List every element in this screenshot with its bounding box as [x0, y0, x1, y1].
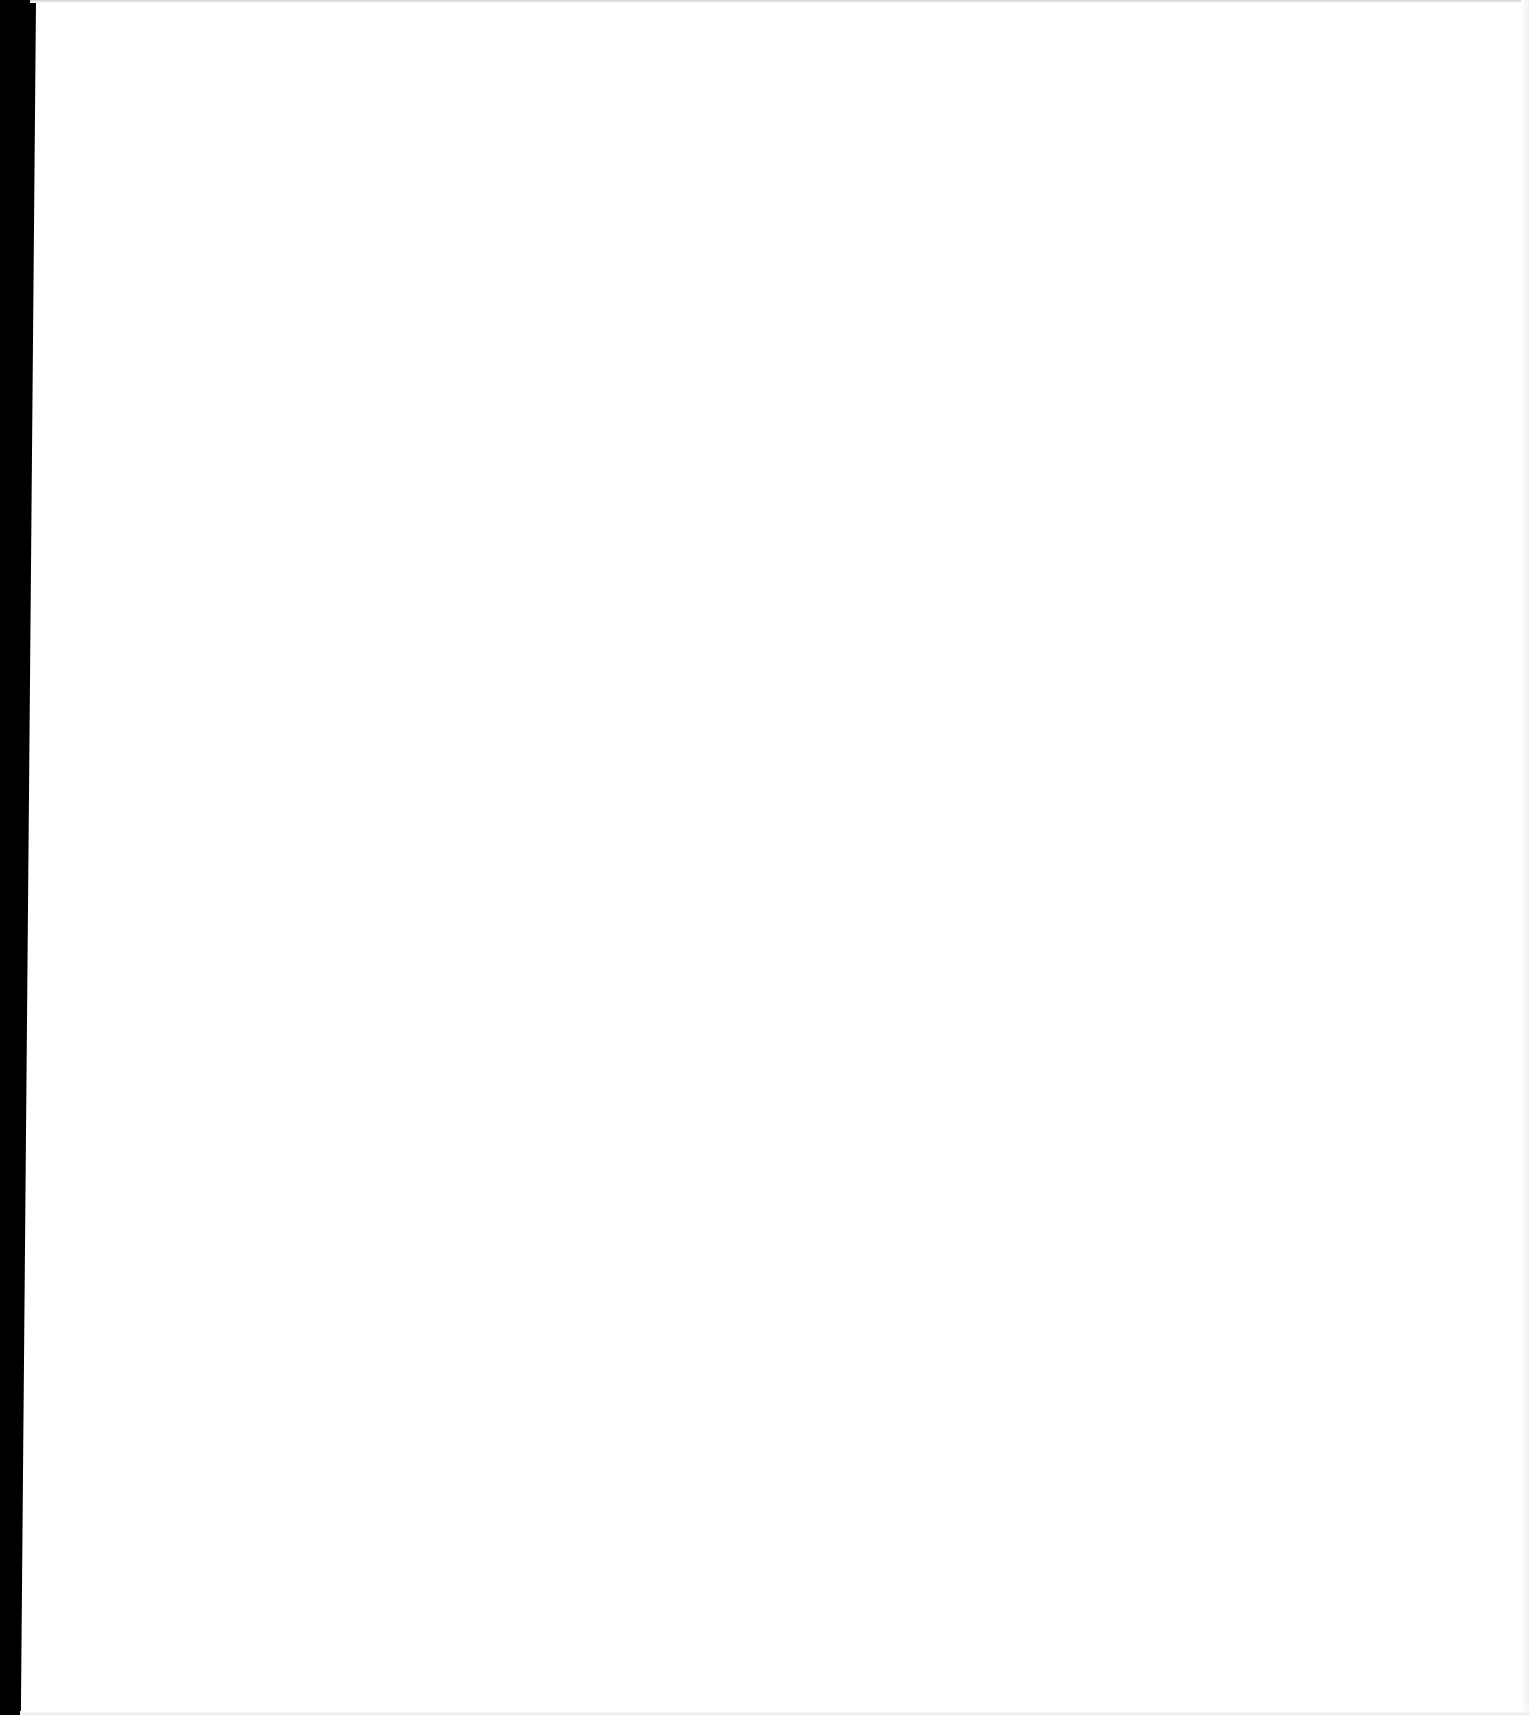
blank-page-area — [36, 3, 1521, 1711]
scan-right-border — [1521, 0, 1529, 1715]
scan-bottom-border — [20, 1711, 1529, 1715]
scan-left-border — [0, 0, 36, 1715]
scanned-page — [0, 0, 1529, 1715]
